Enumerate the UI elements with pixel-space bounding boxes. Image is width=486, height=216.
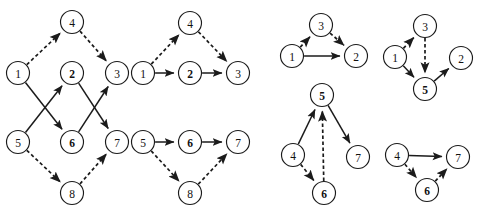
graph-node-3: 3: [414, 15, 437, 38]
edge-n1-to-n6: [25, 83, 62, 130]
edge-q1-to-q3: [403, 38, 413, 49]
node-label-6: 6: [424, 185, 430, 197]
edge-q1-to-q5: [403, 66, 414, 77]
node-label-8: 8: [187, 188, 193, 200]
graph-node-8: 8: [61, 182, 84, 205]
node-label-1: 1: [15, 68, 21, 80]
edge-q6-to-q7: [435, 169, 447, 181]
edge-n2-to-n7: [79, 83, 109, 128]
graph-node-4: 4: [386, 144, 409, 167]
node-label-5: 5: [422, 84, 428, 96]
node-label-6: 6: [321, 188, 327, 200]
panel-nodes-panel-3: 1325476: [281, 14, 370, 205]
panel-edges-panel-1: [25, 31, 108, 184]
graph-node-5: 5: [414, 78, 437, 101]
node-label-6: 6: [69, 137, 75, 149]
edge-q4-to-q6: [405, 164, 417, 178]
node-label-3: 3: [318, 20, 324, 32]
node-label-4: 4: [394, 150, 400, 162]
edge-n5-to-n2: [25, 86, 62, 133]
edge-m8-to-m7: [198, 154, 227, 184]
graph-node-6: 6: [61, 131, 84, 154]
graph-node-2: 2: [179, 62, 202, 85]
graph-node-5: 5: [311, 84, 334, 107]
graph-figure-canvas: 142356781423567813254761325476: [0, 0, 486, 216]
graph-node-1: 1: [384, 46, 407, 69]
edge-p5-to-p7: [328, 105, 350, 143]
edge-p3-to-p2: [330, 33, 344, 45]
edge-p4-to-p5: [298, 110, 315, 145]
graph-node-2: 2: [345, 45, 368, 68]
node-label-6: 6: [187, 137, 193, 149]
nodes-layer: 142356781423567813254761325476: [7, 11, 473, 205]
graph-node-3: 3: [227, 62, 250, 85]
graph-node-5: 5: [132, 131, 155, 154]
panel-edges-panel-2: [151, 32, 227, 184]
node-label-5: 5: [140, 137, 146, 149]
node-label-3: 3: [114, 68, 120, 80]
panel-edges-panel-3: [298, 33, 350, 181]
edge-m5-to-m8: [151, 151, 179, 181]
edge-n8-to-n7: [80, 154, 106, 184]
node-label-1: 1: [392, 52, 398, 64]
panel-edges-panel-4: [403, 38, 449, 182]
edge-n5-to-n8: [27, 150, 61, 182]
node-label-4: 4: [187, 18, 193, 30]
edge-m4-to-m3: [198, 32, 226, 62]
node-label-2: 2: [69, 68, 75, 80]
edge-p1-to-p3: [300, 37, 310, 47]
edge-p6-to-p5: [322, 111, 323, 181]
graph-node-1: 1: [132, 62, 155, 85]
node-label-4: 4: [69, 17, 75, 29]
node-label-5: 5: [15, 137, 21, 149]
graph-node-7: 7: [347, 146, 370, 169]
edge-n1-to-n4: [27, 33, 61, 65]
node-label-3: 3: [422, 21, 428, 33]
graph-node-6: 6: [179, 131, 202, 154]
edge-q4-to-q7: [409, 155, 442, 156]
edge-p4-to-p6: [301, 164, 314, 180]
graph-node-3: 3: [106, 62, 129, 85]
graph-node-4: 4: [282, 144, 305, 167]
node-label-7: 7: [455, 152, 461, 164]
graph-node-3: 3: [310, 14, 333, 37]
node-label-8: 8: [69, 188, 75, 200]
panel-nodes-panel-1: 14235678: [7, 11, 129, 205]
graph-node-7: 7: [447, 146, 470, 169]
node-label-7: 7: [235, 137, 241, 149]
node-label-7: 7: [114, 137, 120, 149]
panel-nodes-panel-4: 1325476: [384, 15, 473, 202]
edge-n6-to-n3: [79, 86, 109, 131]
graph-node-4: 4: [61, 11, 84, 34]
node-label-2: 2: [187, 68, 193, 80]
node-label-7: 7: [355, 152, 361, 164]
graph-node-6: 6: [416, 179, 439, 202]
graph-node-2: 2: [450, 47, 473, 70]
edge-n4-to-n3: [80, 31, 106, 61]
graph-node-6: 6: [313, 182, 336, 205]
graph-node-5: 5: [7, 131, 30, 154]
edge-m1-to-m4: [151, 35, 179, 64]
node-label-2: 2: [353, 51, 359, 63]
graph-node-2: 2: [61, 62, 84, 85]
node-label-2: 2: [458, 53, 464, 65]
graph-node-7: 7: [227, 131, 250, 154]
graph-node-1: 1: [281, 45, 304, 68]
graph-node-4: 4: [179, 12, 202, 35]
graph-node-7: 7: [106, 131, 129, 154]
graph-node-8: 8: [179, 182, 202, 205]
node-label-1: 1: [140, 68, 146, 80]
edge-q5-to-q2: [434, 69, 449, 82]
node-label-3: 3: [235, 68, 241, 80]
node-label-4: 4: [290, 150, 296, 162]
panel-nodes-panel-2: 14235678: [132, 12, 250, 205]
node-label-5: 5: [319, 90, 325, 102]
graph-node-1: 1: [7, 62, 30, 85]
node-label-1: 1: [289, 51, 295, 63]
